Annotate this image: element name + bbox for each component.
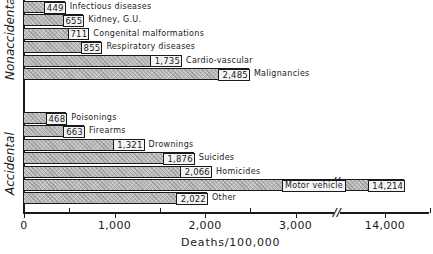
x-axis-title: Deaths/100,000 <box>181 236 280 249</box>
major-tick <box>24 213 25 218</box>
minor-tick <box>250 208 251 213</box>
value-label: 468 <box>46 113 68 125</box>
group-label-accidental: Accidental <box>3 132 17 195</box>
bar-malignancies <box>24 68 249 80</box>
category-label: Firearms <box>89 125 126 137</box>
category-label: Respiratory diseases <box>106 41 195 53</box>
minor-tick <box>69 208 70 213</box>
category-label: Suicides <box>199 152 235 164</box>
tick-label: 2,000 <box>175 219 235 232</box>
minor-tick <box>160 208 161 213</box>
category-label: Homicides <box>216 166 260 178</box>
category-label: Poisonings <box>71 112 116 124</box>
horizontal-bar-chart: Nonaccidental Accidental // // 449Infect… <box>0 0 433 254</box>
major-tick <box>385 213 386 218</box>
axis-break-mark: // <box>333 206 341 219</box>
value-label: 449 <box>44 2 66 14</box>
value-label: 14,214 <box>368 180 405 192</box>
category-label: Congenital malformations <box>93 28 204 40</box>
value-label: 1,321 <box>113 139 145 151</box>
major-tick <box>296 213 297 218</box>
bar-motor-vehicle <box>24 179 404 191</box>
category-label: Malignancies <box>254 68 310 80</box>
value-label: 1,735 <box>150 55 182 67</box>
value-label: 2,022 <box>176 193 208 205</box>
category-label: Other <box>212 192 236 204</box>
major-tick <box>115 213 116 218</box>
category-label: Motor vehicle <box>282 180 346 192</box>
major-tick <box>205 213 206 218</box>
value-label: 1,876 <box>163 153 195 165</box>
tick-label: 1,000 <box>85 219 145 232</box>
value-label: 2,066 <box>180 166 212 178</box>
value-label: 663 <box>63 126 85 138</box>
category-label: Infectious diseases <box>70 1 152 13</box>
tick-label: 14,000 <box>355 219 415 232</box>
category-label: Kidney, G.U. <box>88 14 141 26</box>
value-label: 2,485 <box>218 69 250 81</box>
group-label-nonaccidental: Nonaccidental <box>3 0 17 80</box>
value-label: 655 <box>63 15 85 27</box>
category-label: Cardio-vascular <box>186 55 253 67</box>
tick-label: 3,000 <box>266 219 326 232</box>
tick-label: 0 <box>0 219 54 232</box>
value-label: 855 <box>81 42 103 54</box>
minor-tick <box>430 208 431 213</box>
category-label: Drownings <box>149 139 194 151</box>
value-label: 711 <box>68 28 90 40</box>
